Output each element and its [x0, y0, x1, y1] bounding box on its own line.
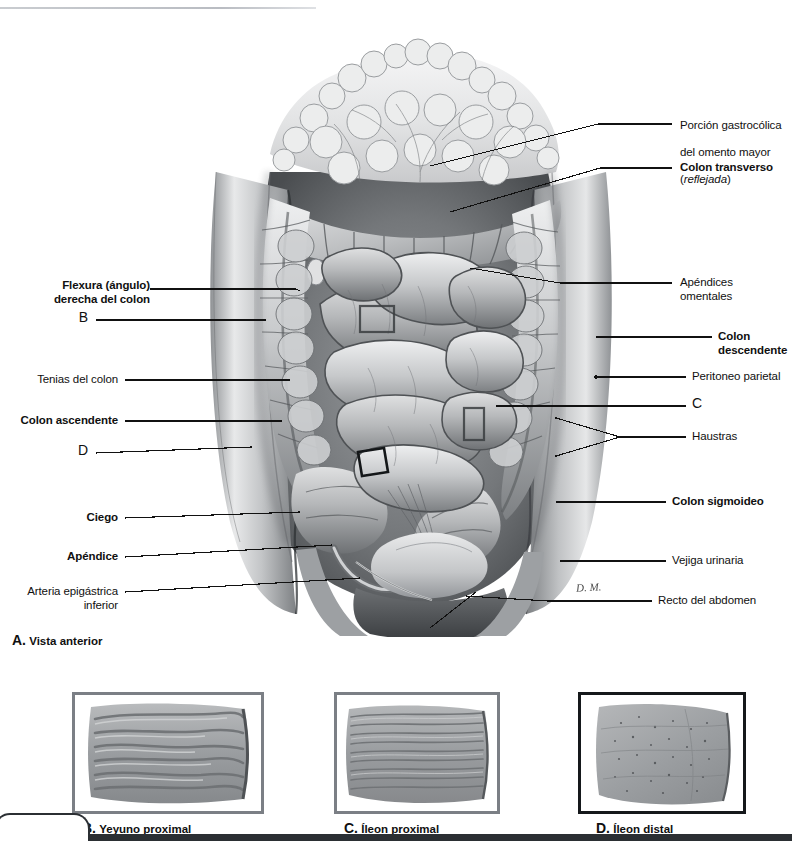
footer-bar — [0, 834, 792, 841]
label-peritoneo-parietal: Peritoneo parietal — [692, 370, 792, 384]
caption-a: A. Vista anterior — [12, 632, 103, 648]
panel-d-frame — [578, 692, 746, 814]
label-apendices-omentales: Apéndices omentales — [680, 276, 780, 303]
label-porcion-line3: (reflejada) — [680, 173, 731, 185]
label-colon-descendente: Colon descendente — [718, 330, 792, 357]
label-marker-c: C — [692, 397, 732, 411]
panel-c-frame — [334, 692, 500, 814]
panel-d-ileon-distal — [578, 692, 746, 814]
label-marker-b: B — [10, 311, 88, 325]
label-porcion-line1: Porción gastrocólica — [680, 119, 782, 131]
label-colon-ascendente: Colon ascendente — [10, 414, 118, 428]
label-porcion-reflejada: reflejada — [684, 173, 727, 185]
label-vejiga-urinaria: Vejiga urinaria — [672, 554, 782, 568]
panel-b-frame — [72, 692, 264, 814]
label-arteria-epigastrica-inferior: Arteria epigástrica inferior — [8, 585, 118, 612]
label-colon-sigmoideo: Colon sigmoideo — [672, 495, 784, 509]
label-tenias-del-colon: Tenias del colon — [10, 373, 118, 387]
caption-a-text: Vista anterior — [29, 635, 102, 647]
label-haustras: Haustras — [692, 430, 772, 444]
panel-c-ileon-proximal — [334, 692, 500, 814]
label-flexura-derecha: Flexura (ángulo) derecha del colon — [10, 279, 150, 306]
atlas-page: D. M. — [0, 0, 792, 841]
artist-signature: D. M. — [576, 580, 602, 593]
panel-b-yeyuno-proximal — [72, 692, 264, 814]
caption-a-key: A. — [12, 632, 26, 648]
label-recto-del-abdomen: Recto del abdomen — [658, 594, 786, 608]
label-marker-d: D — [10, 444, 88, 458]
main-illustration — [120, 22, 680, 637]
top-rule-divider — [0, 7, 316, 9]
label-ciego: Ciego — [10, 511, 118, 525]
label-colon-transverso: Colon transverso — [680, 161, 792, 175]
footer-page-tab — [0, 813, 90, 841]
label-apendice: Apéndice — [10, 550, 118, 564]
label-porcion-line2: del omento mayor — [680, 146, 770, 158]
